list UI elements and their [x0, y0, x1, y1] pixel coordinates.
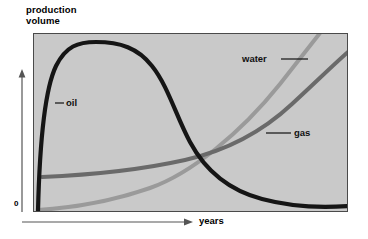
chart-figure: productionvolume 0 years oil water gas [0, 0, 368, 239]
up-arrow-icon [19, 69, 26, 78]
y-axis [19, 69, 26, 212]
x-axis [22, 218, 193, 225]
chart-svg [0, 0, 368, 239]
origin-tick-label: 0 [14, 199, 18, 208]
series-label-water: water [242, 53, 267, 64]
series-label-gas: gas [294, 127, 310, 138]
y-axis-title: productionvolume [26, 4, 77, 26]
y-axis-title-line-2: volume [26, 15, 60, 26]
series-label-oil: oil [66, 97, 77, 108]
x-axis-title: years [199, 215, 224, 226]
right-arrow-icon [184, 218, 193, 225]
y-axis-title-line-1: production [26, 4, 77, 15]
